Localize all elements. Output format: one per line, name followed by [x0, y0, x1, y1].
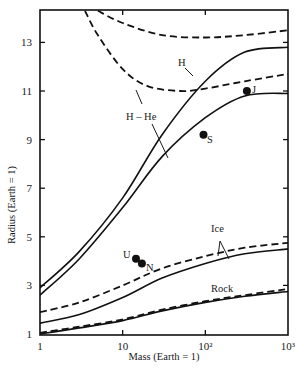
y-tick-label: 13: [21, 36, 33, 48]
label-h: H: [178, 57, 186, 68]
plot-frame: [40, 10, 288, 335]
planet-point-j: [243, 87, 251, 95]
planet-point-n: [138, 260, 146, 268]
label-rock: Rock: [211, 283, 234, 294]
plot-border: [40, 10, 288, 335]
planet-label-s: S: [207, 134, 213, 145]
planet-label-j: J: [252, 84, 256, 95]
curve-rock-solid: [40, 292, 288, 335]
axis-ticks: 11010²10³135791113: [21, 10, 296, 352]
x-tick-label: 10: [117, 340, 129, 352]
label-ice: Ice: [211, 223, 224, 234]
x-axis-title: Mass (Earth = 1): [129, 351, 200, 363]
x-tick-label: 10³: [281, 340, 296, 352]
y-tick-label: 9: [27, 134, 33, 146]
curve-h-he-cold-solid: [40, 93, 288, 295]
x-tick-label: 1: [37, 340, 43, 352]
label-h-he: H – He: [126, 111, 157, 122]
y-tick-label: 11: [21, 85, 32, 97]
y-axis-title: Radius (Earth = 1): [6, 166, 18, 244]
y-tick-label: 3: [27, 279, 33, 291]
planet-label-u: U: [123, 249, 131, 260]
curve-h-he-hot-dashed: [85, 11, 288, 91]
model-curves: [40, 11, 288, 334]
y-tick-label: 1: [27, 328, 33, 340]
curve-h-cold-solid: [40, 47, 288, 287]
planet-label-n: N: [146, 262, 154, 273]
y-tick-label: 5: [27, 231, 33, 243]
mass-radius-chart: 11010²10³135791113 H H – He Ice Rock J S…: [0, 0, 304, 372]
curve-h-hot-dashed: [98, 11, 288, 38]
x-tick-label: 10²: [198, 340, 213, 352]
y-tick-label: 7: [27, 182, 33, 194]
